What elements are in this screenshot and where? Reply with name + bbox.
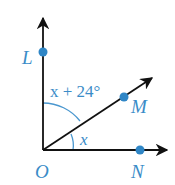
label-L: L [21,47,33,68]
label-O: O [35,161,49,182]
label-angle-LOM: x + 24° [50,82,100,101]
angle-diagram: L M N O x + 24° x [0,0,175,185]
label-N: N [130,161,145,182]
arc-angle-LOM [43,103,80,121]
point-M [120,93,129,102]
label-M: M [130,96,148,117]
point-N [136,146,145,155]
point-L [39,48,48,57]
label-angle-MON: x [79,130,88,149]
arc-angle-MON [71,134,73,150]
